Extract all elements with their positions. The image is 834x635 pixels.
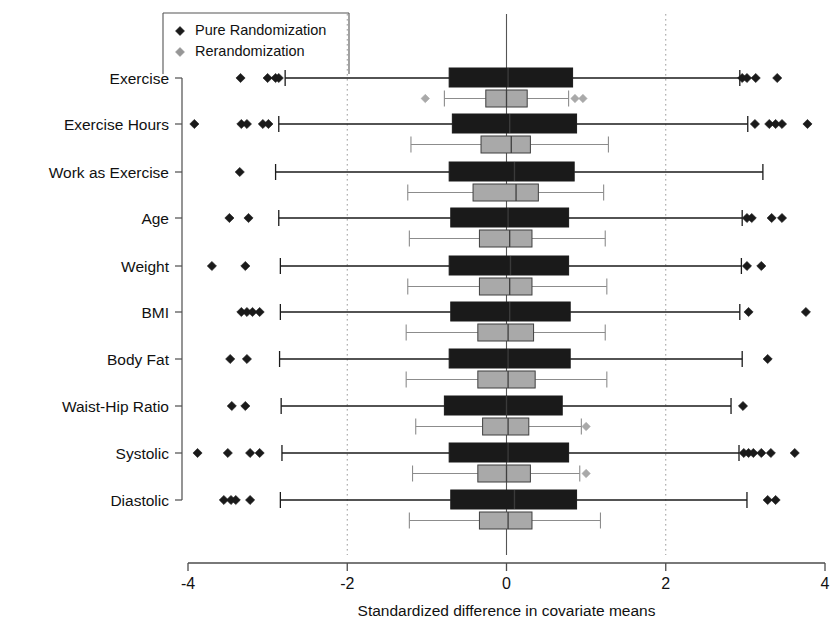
box-iqr xyxy=(478,324,534,341)
box-iqr xyxy=(478,371,535,388)
box-iqr xyxy=(478,465,531,482)
box-iqr xyxy=(449,162,574,181)
legend-label: Pure Randomization xyxy=(195,22,326,38)
y-tick-label: Work as Exercise xyxy=(49,164,169,181)
box-iqr xyxy=(479,278,532,295)
box-iqr xyxy=(449,349,570,368)
y-tick-label: Waist-Hip Ratio xyxy=(62,398,169,415)
box-iqr xyxy=(473,184,538,201)
box-iqr xyxy=(449,443,568,462)
y-tick-label: Systolic xyxy=(116,445,170,462)
x-tick-label: -4 xyxy=(181,575,195,592)
box-iqr xyxy=(444,396,562,415)
box-iqr xyxy=(481,136,530,153)
box-iqr xyxy=(451,208,569,227)
legend-item: Pure Randomization xyxy=(176,22,327,38)
box-iqr xyxy=(449,68,572,87)
boxplot-figure: ExerciseExercise HoursWork as ExerciseAg… xyxy=(0,0,834,635)
y-tick-label: Exercise Hours xyxy=(64,116,169,133)
y-tick-label: Age xyxy=(141,210,169,227)
y-tick-label: Body Fat xyxy=(107,351,170,368)
box-iqr xyxy=(449,256,568,275)
x-axis-title: Standardized difference in covariate mea… xyxy=(358,602,656,619)
y-tick-label: Exercise xyxy=(110,70,169,87)
box-iqr xyxy=(451,302,570,321)
box-iqr xyxy=(479,230,532,247)
y-tick-label: Diastolic xyxy=(110,492,169,509)
legend-item: Rerandomization xyxy=(176,43,305,59)
y-tick-label: BMI xyxy=(141,304,169,321)
y-tick-label: Weight xyxy=(121,258,170,275)
box-iqr xyxy=(451,490,577,509)
legend-label: Rerandomization xyxy=(195,43,305,59)
box-iqr xyxy=(479,512,532,529)
boxplot-svg: ExerciseExercise HoursWork as ExerciseAg… xyxy=(0,0,834,635)
x-tick-label: -2 xyxy=(340,575,354,592)
plot-background xyxy=(0,0,834,635)
x-tick-label: 4 xyxy=(821,575,830,592)
box-iqr xyxy=(452,114,576,133)
x-tick-label: 0 xyxy=(502,575,511,592)
x-tick-label: 2 xyxy=(661,575,670,592)
box-iqr xyxy=(483,418,529,435)
